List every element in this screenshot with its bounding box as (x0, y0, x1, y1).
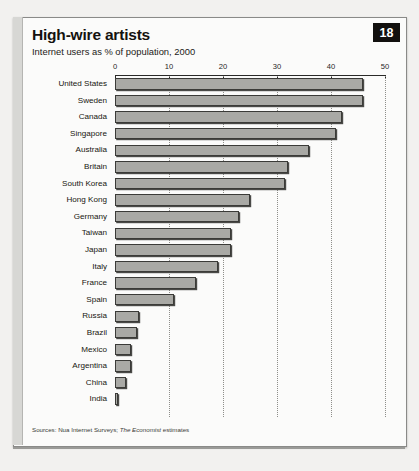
page-root: High-wire artists Internet users as % of… (0, 0, 419, 471)
card-bottom-rule (13, 447, 405, 449)
bar-track (115, 76, 385, 93)
chart-row: Canada (32, 109, 387, 126)
bar-track (115, 126, 385, 143)
category-label: Britain (32, 159, 107, 176)
category-label: Spain (32, 292, 107, 309)
category-label: Germany (32, 209, 107, 226)
category-label: Mexico (32, 342, 107, 359)
bar (115, 277, 196, 288)
bar-track (115, 225, 385, 242)
bar-track (115, 159, 385, 176)
chart-row: United States (32, 76, 387, 93)
bar-track (115, 209, 385, 226)
bar (115, 311, 139, 322)
page-subtitle: Internet users as % of population, 2000 (32, 46, 195, 57)
bar (115, 327, 137, 338)
source-suffix: estimates (161, 426, 189, 433)
category-label: Australia (32, 142, 107, 159)
bar-chart: 01020304050 United StatesSwedenCanadaSin… (32, 62, 387, 417)
source-prefix: Sources: Nua Internet Surveys; (32, 426, 120, 433)
chart-row: Spain (32, 292, 387, 309)
chart-rows: United StatesSwedenCanadaSingaporeAustra… (32, 76, 387, 408)
chart-row: Sweden (32, 93, 387, 110)
chart-row: Australia (32, 142, 387, 159)
category-label: India (32, 391, 107, 408)
x-tick-label: 20 (219, 62, 227, 71)
bar (115, 78, 363, 89)
bar-track (115, 391, 385, 408)
x-tick-label: 30 (273, 62, 281, 71)
bar-track (115, 142, 385, 159)
bar (115, 360, 131, 371)
chart-row: Britain (32, 159, 387, 176)
bar-track (115, 325, 385, 342)
bar-track (115, 109, 385, 126)
x-tick-label: 50 (381, 62, 389, 71)
category-label: Taiwan (32, 225, 107, 242)
bar-track (115, 93, 385, 110)
bar-track (115, 308, 385, 325)
chart-row: Singapore (32, 126, 387, 143)
chart-row: China (32, 375, 387, 392)
category-label: South Korea (32, 176, 107, 193)
bar-track (115, 375, 385, 392)
bar (115, 244, 231, 255)
category-label: Canada (32, 109, 107, 126)
chart-row: Germany (32, 209, 387, 226)
bar (115, 178, 285, 189)
status-badge: 18 (373, 23, 400, 42)
bar (115, 294, 174, 305)
category-label: Singapore (32, 126, 107, 143)
bar-track (115, 176, 385, 193)
page-title: High-wire artists (32, 26, 150, 44)
category-label: Russia (32, 308, 107, 325)
chart-row: Hong Kong (32, 192, 387, 209)
source-publication: The Economist (120, 426, 161, 433)
chart-row: Italy (32, 259, 387, 276)
category-label: Japan (32, 242, 107, 259)
bar (115, 377, 126, 388)
x-tick-label: 10 (165, 62, 173, 71)
bar-track (115, 242, 385, 259)
chart-row: France (32, 275, 387, 292)
bar (115, 228, 231, 239)
bar (115, 344, 131, 355)
x-tick-label: 40 (327, 62, 335, 71)
chart-row: India (32, 391, 387, 408)
bar (115, 194, 250, 205)
bar (115, 393, 118, 404)
bar-track (115, 342, 385, 359)
bar (115, 145, 309, 156)
bar (115, 261, 218, 272)
bar (115, 161, 288, 172)
card-left-tab (13, 17, 23, 445)
category-label: Sweden (32, 93, 107, 110)
bar-track (115, 275, 385, 292)
bar (115, 211, 239, 222)
bar (115, 128, 336, 139)
chart-row: Brazil (32, 325, 387, 342)
chart-row: Mexico (32, 342, 387, 359)
category-label: Hong Kong (32, 192, 107, 209)
bar-track (115, 292, 385, 309)
chart-row: South Korea (32, 176, 387, 193)
chart-row: Russia (32, 308, 387, 325)
category-label: France (32, 275, 107, 292)
chart-row: Taiwan (32, 225, 387, 242)
bar (115, 111, 342, 122)
bar-track (115, 192, 385, 209)
bar-track (115, 358, 385, 375)
category-label: China (32, 375, 107, 392)
category-label: Argentina (32, 358, 107, 375)
category-label: Italy (32, 259, 107, 276)
source-note: Sources: Nua Internet Surveys; The Econo… (32, 426, 189, 433)
category-label: United States (32, 76, 107, 93)
chart-row: Japan (32, 242, 387, 259)
x-tick-label: 0 (113, 62, 117, 71)
category-label: Brazil (32, 325, 107, 342)
bar (115, 95, 363, 106)
bar-track (115, 259, 385, 276)
chart-row: Argentina (32, 358, 387, 375)
